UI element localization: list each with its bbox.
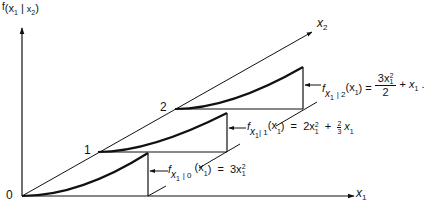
condition: | 0 xyxy=(183,171,192,180)
subscript: 1 xyxy=(315,128,319,135)
equals-sign: = xyxy=(365,82,371,94)
conditional-density-diagram: f(x1 | x2) x2 x1 0 1 2 fx1 | 0 (x1) = 3x… xyxy=(0,0,447,209)
rhs-term: 3x xyxy=(230,163,242,175)
slice-x2-2 xyxy=(175,67,317,126)
plus-sign: + xyxy=(399,78,405,90)
density-curve-1 xyxy=(98,113,227,152)
y-axis-label: f(x1 | x2) xyxy=(2,2,39,16)
subscript: 1 xyxy=(255,132,259,139)
level-label-0: 0 xyxy=(6,188,13,202)
numerator: 2 xyxy=(337,120,341,128)
subscript: 1 xyxy=(176,175,180,182)
condition: | 2 xyxy=(337,90,346,99)
subscript: 1 xyxy=(330,94,334,101)
subscript-var: x1 | 0 xyxy=(171,169,191,180)
argument: (x xyxy=(268,119,277,131)
superscript: 2 xyxy=(242,163,246,170)
subscript: 1 xyxy=(362,193,366,202)
fraction: 3x21 2 xyxy=(375,72,397,99)
denominator: 3 xyxy=(337,128,341,135)
subscript-var: x1| 1 xyxy=(250,126,268,137)
paren: ) xyxy=(281,120,285,132)
x1-axis-label: x1 xyxy=(356,186,366,202)
rhs-tail: + x1 . xyxy=(399,78,424,92)
denominator: 2 xyxy=(375,86,397,99)
numerator: 3x21 xyxy=(375,72,397,86)
sup-sub-stack: 21 xyxy=(389,73,393,85)
equals-sign: = xyxy=(291,120,297,132)
lhs: fx1 | 2(x1) = xyxy=(322,82,372,96)
rhs-term1: 2x xyxy=(303,120,315,132)
density-curve-0 xyxy=(22,153,148,196)
subscript: 1 xyxy=(389,79,393,85)
level-label-1: 1 xyxy=(84,143,91,157)
level-label-2: 2 xyxy=(160,100,167,114)
slice-x2-0 xyxy=(22,153,166,196)
equation-level-2: fx1 | 2(x1) = 3x21 2 + x1 . xyxy=(322,66,424,99)
subscript: 1 xyxy=(14,9,18,16)
bar: | xyxy=(21,2,24,14)
f-symbol: f xyxy=(2,1,5,12)
subscript: 1 xyxy=(242,170,246,177)
paren: ) xyxy=(359,82,363,94)
period: . xyxy=(421,78,424,90)
plus-sign: + xyxy=(325,120,331,132)
condition: | 1 xyxy=(259,128,268,137)
equation-level-1: fx1| 1(x1) = 2x21 + 23 x1 xyxy=(247,120,354,135)
subscript-var: x1 | 2 xyxy=(325,88,345,99)
subscript: 1 xyxy=(414,86,418,93)
equation-level-0: fx1 | 0 (x1) = 3x21 xyxy=(168,163,246,177)
superscript: 2 xyxy=(315,121,319,128)
fraction: 23 xyxy=(337,120,341,135)
equals-sign: = xyxy=(217,163,223,175)
paren: ) xyxy=(208,163,212,175)
sup-sub-stack: 21 xyxy=(315,121,319,135)
subscript: 1 xyxy=(350,128,354,135)
numerator-term: 3x xyxy=(378,72,390,84)
diagram-graphics xyxy=(0,0,447,209)
x2-axis-label: x2 xyxy=(317,16,327,32)
sup-sub-stack: 21 xyxy=(242,163,246,177)
argument: (x xyxy=(195,161,204,173)
paren: ) xyxy=(35,2,39,14)
subscript: 2 xyxy=(323,23,327,32)
argument: (x xyxy=(346,81,355,93)
